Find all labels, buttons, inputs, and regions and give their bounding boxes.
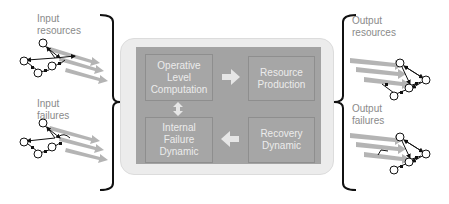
resource-production-label: Resource Production: [258, 67, 306, 91]
right-brace: [334, 15, 356, 190]
recovery-dynamic-label: Recovery Dynamic: [260, 128, 302, 152]
internal-failure-dynamic-label: Internal Failure Dynamic: [160, 122, 199, 158]
operative-level-computation-block: Operative Level Computation: [145, 54, 213, 101]
output-resources-network-icon: [350, 58, 430, 100]
input-resources-network-icon: [20, 39, 108, 84]
recovery-dynamic-block: Recovery Dynamic: [248, 117, 315, 163]
operative-level-computation-label: Operative Level Computation: [151, 60, 208, 96]
left-brace: [100, 15, 120, 190]
output-failures-network-icon: [350, 133, 430, 174]
internal-failure-dynamic-block: Internal Failure Dynamic: [145, 117, 213, 163]
resource-production-block: Resource Production: [248, 56, 315, 101]
input-failures-network-icon: [20, 119, 108, 163]
